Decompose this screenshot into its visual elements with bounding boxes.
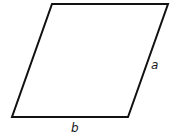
side-label-a: a — [151, 58, 158, 72]
side-label-b: b — [71, 121, 79, 135]
parallelogram-diagram: a b — [0, 0, 175, 140]
parallelogram-shape — [12, 4, 168, 117]
